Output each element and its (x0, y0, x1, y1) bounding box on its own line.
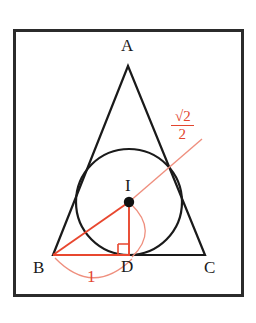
inradius-fraction-label: √2 2 (171, 109, 194, 142)
radicand-value: 2 (183, 108, 191, 124)
fraction-denominator: 2 (171, 126, 194, 142)
incenter-label-i: I (125, 177, 131, 194)
diagram-canvas: A B C D I 1 √2 2 (0, 0, 256, 323)
length-label-bd: 1 (87, 268, 96, 285)
incenter-dot (124, 197, 134, 207)
fraction-numerator: √2 (171, 109, 194, 125)
vertex-label-a: A (121, 37, 133, 54)
vertex-label-c: C (204, 259, 216, 276)
radical-icon: √ (174, 109, 183, 124)
vertex-label-d: D (121, 258, 133, 275)
vertex-label-b: B (33, 259, 45, 276)
